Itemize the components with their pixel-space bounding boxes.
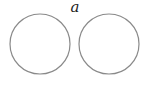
left-circle [10,14,70,74]
diagram-label: a [71,0,80,16]
diagram-canvas: a [0,0,145,86]
right-circle [79,14,139,74]
